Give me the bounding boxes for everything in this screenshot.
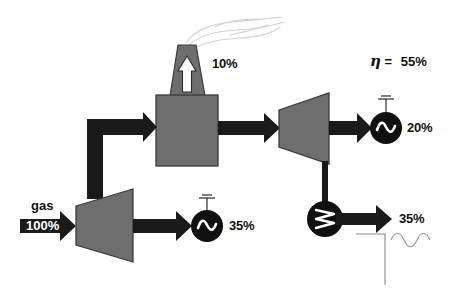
heat-wave-glyph xyxy=(391,233,430,247)
steam-turbine-output-arrow xyxy=(329,113,372,143)
gas-generator-label: 35% xyxy=(229,219,254,232)
fuel-percent-label: 100% xyxy=(26,219,59,232)
boiler xyxy=(156,95,218,166)
heat-output-label: 35% xyxy=(399,212,424,225)
gas-turbine xyxy=(76,189,133,262)
smoke-plume xyxy=(186,17,284,50)
diagram-canvas xyxy=(0,0,450,291)
energy-flow-diagram: 10% η = 55% 20% gas 100% 35% 35% xyxy=(0,0,450,291)
generator-terminal xyxy=(199,195,215,210)
fuel-name-label: gas xyxy=(31,199,53,212)
generator-terminal xyxy=(378,96,394,112)
gas-turbine-output-arrow xyxy=(133,211,192,241)
district-heating-symbol xyxy=(356,233,430,285)
eta-equals: = xyxy=(385,54,393,69)
efficiency-label: η = 55% xyxy=(370,54,427,69)
eta-symbol: η xyxy=(370,52,381,70)
stack-loss-label: 10% xyxy=(212,57,237,70)
steam-generator-label: 20% xyxy=(407,121,432,134)
steam-turbine xyxy=(279,93,329,164)
steam-generator xyxy=(370,96,402,144)
heat-output-arrow xyxy=(336,205,392,233)
eta-value: 55% xyxy=(401,54,427,69)
condenser-line xyxy=(322,161,328,203)
gas-generator xyxy=(191,195,223,242)
stack xyxy=(170,45,205,96)
steam-line-arrow xyxy=(218,113,280,143)
exhaust-duct-arrow xyxy=(87,112,157,199)
